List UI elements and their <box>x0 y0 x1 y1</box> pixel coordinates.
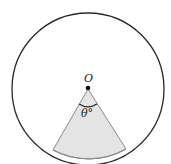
circle-sector-diagram: O θ° <box>0 0 171 164</box>
center-label: O <box>84 72 93 85</box>
shaded-sector <box>53 89 126 159</box>
angle-label: θ° <box>81 107 93 120</box>
center-point <box>86 86 91 91</box>
